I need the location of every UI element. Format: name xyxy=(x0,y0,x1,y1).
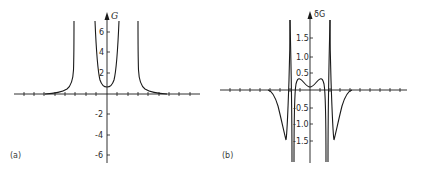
panel-a-y-arrow-icon xyxy=(105,12,110,20)
panel-a-y-tick-label: -2 xyxy=(95,110,103,119)
panel-b-y-arrow-icon xyxy=(308,11,313,19)
panel-b xyxy=(220,11,407,163)
panel-a-y-tick-label: 2 xyxy=(99,69,104,78)
figure: G 6 4 2 -2 -4 -6 (a) xyxy=(0,0,421,173)
panel-a-y-tick-label: 6 xyxy=(99,28,104,37)
panel-b-y-tick-label: 0.5 xyxy=(296,69,309,78)
panel-a-label: (a) xyxy=(10,151,21,160)
panel-a xyxy=(14,12,200,163)
panel-b-y-tick-label: 1.0 xyxy=(296,53,309,62)
panel-b-y-ticks xyxy=(310,38,313,141)
panel-b-y-tick-label: -0.5 xyxy=(293,104,309,113)
panel-b-curve-left xyxy=(268,20,290,140)
panel-b-y-tick-label: 1.5 xyxy=(296,34,309,43)
panel-a-y-axis-label: G xyxy=(111,11,118,21)
panel-a-labels: G 6 4 2 -2 -4 -6 (a) xyxy=(10,11,118,160)
panel-b-y-tick-label: -1.5 xyxy=(293,137,309,146)
panel-b-y-tick-label: -1.0 xyxy=(293,120,309,129)
panel-a-y-tick-label: -6 xyxy=(95,151,103,160)
panel-b-y-axis-label: δG xyxy=(314,10,325,19)
panel-a-curve-right xyxy=(138,21,167,94)
panel-a-y-tick-label: -4 xyxy=(95,131,103,140)
panel-b-label: (b) xyxy=(222,151,233,160)
panel-a-y-tick-label: 4 xyxy=(99,48,104,57)
panel-b-curve-right xyxy=(330,20,352,140)
panel-a-curve-left xyxy=(45,21,74,94)
